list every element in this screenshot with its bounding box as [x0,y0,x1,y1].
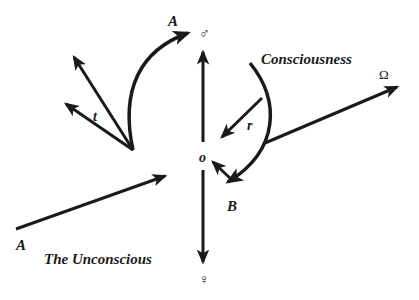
psychology-vector-diagram: A ♂ Consciousness Ω t r o B A The Uncons… [0,0,419,300]
t-arrow-lower [66,104,133,150]
omega-arrow [265,87,397,143]
label-r: r [247,118,253,133]
label-o: o [199,150,206,165]
male-symbol: ♂ [199,26,210,41]
label-b: B [226,198,237,214]
female-symbol: ♀ [199,272,210,287]
label-a-bottom: A [15,237,26,253]
r-arrow [222,98,262,137]
label-unconscious: The Unconscious [44,251,152,267]
label-t: t [93,109,98,124]
unconscious-arrow [16,176,165,229]
label-omega: Ω [379,67,389,82]
label-consciousness: Consciousness [261,51,352,67]
curved-arrow-a [129,33,188,150]
t-arrow-upper [74,57,133,150]
o-arrow [213,162,232,180]
label-a-top: A [167,13,178,29]
